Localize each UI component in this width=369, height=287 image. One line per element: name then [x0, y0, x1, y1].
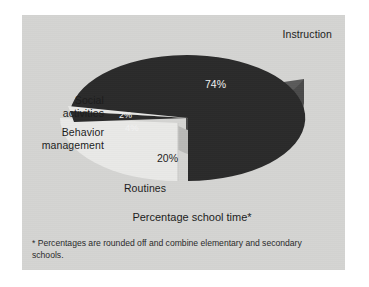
slice-label-behavior-management: Behavior management: [22, 126, 104, 151]
slice-value-behavior-management: 4%: [125, 122, 139, 133]
slice-value-social-activities: 2%: [119, 110, 132, 120]
pie-chart: Instruction Social activities Behavior m…: [22, 15, 345, 270]
figure-panel: Instruction Social activities Behavior m…: [22, 15, 345, 270]
chart-caption: Percentage school time*: [82, 211, 302, 223]
slice-label-instruction: Instruction: [222, 28, 332, 41]
chart-footnote: * Percentages are rounded off and combin…: [32, 237, 312, 261]
slice-label-routines: Routines: [100, 182, 190, 195]
slice-value-routines: 20%: [157, 152, 178, 164]
slice-value-instruction: 74%: [205, 78, 226, 90]
slice-label-social-activities: Social activities: [22, 94, 104, 119]
